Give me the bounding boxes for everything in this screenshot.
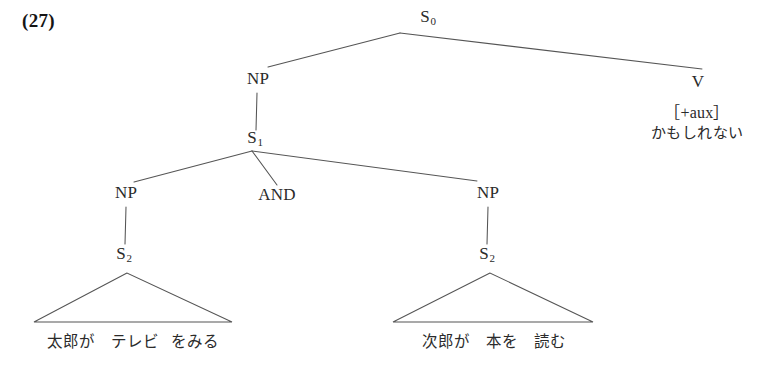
tree-diagram-figure: (27) S0 NP V ［+aux］ かもしれない S1 NP AND NP …: [0, 0, 768, 377]
v-feature-aux: ［+aux］: [664, 99, 729, 123]
node-s2-left-subscript: 2: [126, 252, 132, 264]
node-np-top: NP: [247, 69, 269, 89]
branch-np-left-s2: [125, 207, 126, 244]
terminal-left-segment-3: をみる: [171, 329, 219, 351]
branch-s1-np-left: [134, 151, 252, 182]
node-s1-subscript: 1: [257, 136, 263, 148]
node-s0: S0: [420, 7, 435, 27]
node-s0-subscript: 0: [430, 15, 436, 27]
v-word-kamoshirenai: かもしれない: [651, 121, 744, 142]
terminal-string-right: 次郎が 本を 読む: [422, 329, 566, 351]
branch-np-right-s2: [487, 207, 488, 244]
node-conjunction-and: AND: [258, 185, 295, 205]
branch-s0-np: [268, 33, 400, 67]
branch-s1-np-right: [252, 151, 477, 181]
branch-s0-v: [400, 33, 702, 69]
node-np-right: NP: [477, 183, 499, 203]
branch-np-s1: [256, 93, 257, 130]
triangle-left: [34, 273, 232, 322]
node-s0-label: S: [420, 7, 430, 26]
example-number: (27): [22, 10, 55, 32]
terminal-right-segment-3: 読む: [534, 329, 566, 351]
terminal-right-segment-2: 本を: [486, 329, 518, 351]
terminal-left-segment-2: テレビ: [111, 329, 159, 351]
triangle-right: [393, 273, 593, 322]
node-v: V: [692, 72, 704, 92]
terminal-right-segment-1: 次郎が: [422, 329, 470, 351]
node-s2-left: S2: [116, 244, 131, 264]
node-s1-label: S: [247, 128, 257, 147]
branch-s1-and: [252, 151, 277, 185]
node-s2-right-subscript: 2: [489, 252, 495, 264]
terminal-left-segment-1: 太郎が: [47, 329, 95, 351]
node-np-left: NP: [115, 183, 137, 203]
terminal-string-left: 太郎が テレビ をみる: [47, 329, 219, 351]
node-s2-right-label: S: [479, 244, 489, 263]
node-s2-right: S2: [479, 244, 494, 264]
node-s1: S1: [247, 128, 262, 148]
node-s2-left-label: S: [116, 244, 126, 263]
